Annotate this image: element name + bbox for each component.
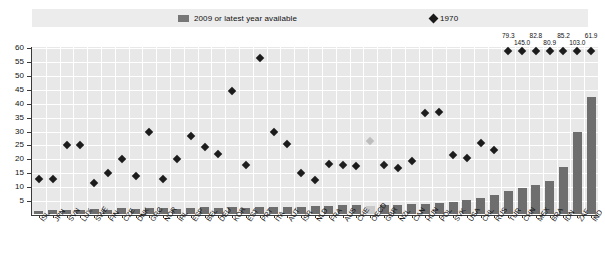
y-axis-tick-label: 25 (4, 141, 24, 149)
y-axis-tick (27, 118, 31, 119)
y-axis-tick-label: 10 (4, 183, 24, 191)
y-axis-tick (27, 145, 31, 146)
y-axis-tick-label: 45 (4, 86, 24, 94)
value-label-zaf: 103.0 (564, 39, 590, 46)
y-axis-tick (27, 187, 31, 188)
y-axis-tick (27, 90, 31, 91)
y-axis-tick-label: 30 (4, 128, 24, 136)
y-axis-tick-label: 20 (4, 155, 24, 163)
y-axis-tick (27, 104, 31, 105)
y-axis-tick (27, 173, 31, 174)
y-axis-tick-label: 40 (4, 100, 24, 108)
y-axis-tick (27, 132, 31, 133)
value-label-bra: 80.9 (537, 39, 563, 46)
y-axis-tick-label: 15 (4, 169, 24, 177)
y-axis-tick (27, 62, 31, 63)
y-axis-tick (27, 159, 31, 160)
y-axis-tick-label: 60 (4, 44, 24, 52)
y-axis-tick-label: 5 (4, 197, 24, 205)
y-axis-tick (27, 201, 31, 202)
x-axis-labels: ISLJPNSVNLUXSWEFINCZEDNKGRCNORIRLESPBELD… (32, 218, 598, 268)
y-axis-tick-label: 55 (4, 58, 24, 66)
y-axis-tick-label: 50 (4, 72, 24, 80)
y-axis-tick-label: 35 (4, 114, 24, 122)
y-axis-tick (27, 76, 31, 77)
value-label-ind: 61.9 (578, 32, 604, 39)
value-label-chn: 145.0 (509, 39, 535, 46)
y-axis-tick (27, 48, 31, 49)
